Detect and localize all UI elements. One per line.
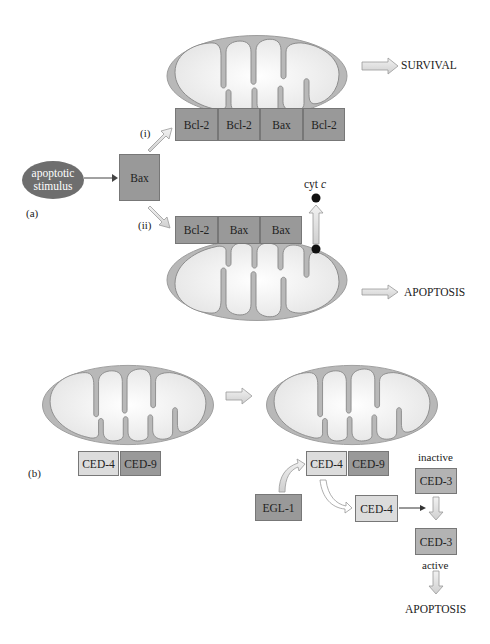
egl1-node: EGL-1 bbox=[255, 494, 302, 521]
cyt-c-dot-membrane bbox=[312, 245, 321, 254]
path-ii-label: (ii) bbox=[138, 218, 151, 232]
ced4-release-arrow-icon bbox=[320, 480, 352, 513]
ced9-right: CED-9 bbox=[348, 451, 389, 476]
apoptosis-diagram: SURVIVAL Bcl-2 Bcl-2 Bax Bcl-2 (i) apopt… bbox=[0, 0, 490, 644]
path-i-label: (i) bbox=[140, 126, 150, 140]
protein-bcl2-bottom: Bcl-2 bbox=[175, 216, 218, 244]
bax-node: Bax bbox=[119, 154, 160, 201]
mitochondrion-b-left bbox=[42, 365, 213, 444]
mitochondrion-survival bbox=[167, 36, 347, 117]
cyt-c-release-arrow-icon bbox=[309, 205, 323, 244]
cyt-c-italic: c bbox=[321, 178, 326, 190]
ced4-released: CED-4 bbox=[355, 495, 398, 522]
cyt-c-label: cyt c bbox=[304, 177, 326, 191]
ced3-active: CED-3 bbox=[415, 528, 457, 555]
cyt-c-dot-released bbox=[312, 194, 321, 203]
apoptotic-stimulus-node: apoptoticstimulus bbox=[22, 161, 84, 199]
arrow-transition-icon bbox=[226, 388, 252, 404]
inactive-label: inactive bbox=[418, 450, 453, 464]
panel-b-label: (b) bbox=[28, 466, 41, 480]
protein-bax-top: Bax bbox=[260, 108, 303, 141]
mitochondrion-b-right bbox=[267, 365, 438, 444]
mitochondrion-apoptosis bbox=[167, 240, 347, 321]
ced3-activation-arrow-icon bbox=[429, 497, 443, 520]
protein-bcl2-top-2: Bcl-2 bbox=[218, 108, 260, 141]
ced9-left: CED-9 bbox=[120, 451, 161, 476]
ced4-right: CED-4 bbox=[306, 451, 347, 476]
stimulus-line-1: apoptotic bbox=[32, 167, 75, 180]
protein-bcl2-top-4: Bcl-2 bbox=[303, 108, 345, 141]
cyt-c-text: cyt bbox=[304, 178, 318, 190]
arrow-head-icon bbox=[112, 174, 118, 182]
arrow-path-i-icon bbox=[148, 128, 172, 152]
ced3-to-apoptosis-arrow-icon bbox=[429, 571, 443, 594]
ced4-left: CED-4 bbox=[78, 451, 119, 476]
survival-label: SURVIVAL bbox=[401, 58, 457, 72]
stimulus-line-2: stimulus bbox=[32, 180, 75, 193]
panel-a-label: (a) bbox=[26, 206, 38, 220]
arrow-head-icon bbox=[420, 505, 426, 511]
apoptosis-label-b: APOPTOSIS bbox=[405, 602, 466, 616]
protein-bax-bottom-1: Bax bbox=[218, 216, 260, 244]
arrow-to-survival-icon bbox=[362, 58, 398, 74]
egl1-curved-arrow-icon bbox=[279, 459, 305, 492]
arrow-to-apoptosis-icon bbox=[362, 285, 398, 299]
ced3-inactive: CED-3 bbox=[415, 468, 457, 494]
protein-bcl2-top-1: Bcl-2 bbox=[175, 108, 218, 141]
active-label: active bbox=[422, 558, 448, 572]
apoptosis-label-a: APOPTOSIS bbox=[404, 285, 465, 299]
protein-bax-bottom-2: Bax bbox=[260, 216, 302, 244]
